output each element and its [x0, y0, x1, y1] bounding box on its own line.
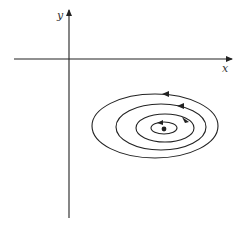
direction-arrows — [157, 91, 189, 125]
orbit-second — [116, 104, 206, 150]
arrow-icon — [162, 91, 169, 97]
orbit-outer — [92, 94, 218, 158]
y-axis-label: y — [56, 9, 64, 22]
equilibrium-point — [162, 127, 167, 132]
orbits — [92, 94, 218, 158]
arrow-icon — [177, 103, 184, 109]
x-axis-label: x — [222, 62, 229, 75]
phase-portrait-diagram: x y — [0, 0, 241, 228]
